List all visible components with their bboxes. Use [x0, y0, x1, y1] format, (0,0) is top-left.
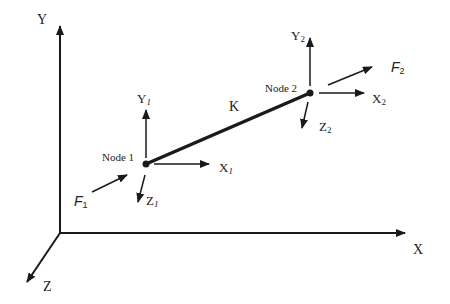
beam-element-diagram: Y X Z K Node 1 Y1 X1 Z1 F1 Node 2 Y2 X2 …	[0, 0, 450, 304]
node-1-force-label: F1	[74, 193, 88, 210]
element-line	[146, 93, 310, 164]
node-1-force-arrow	[92, 175, 127, 192]
node-1-y-label: Y1	[137, 91, 151, 107]
node-1-x-label: X1	[219, 160, 233, 176]
global-y-label: Y	[37, 12, 47, 27]
node-2-z-axis	[302, 102, 308, 128]
global-axes: Y X Z	[27, 12, 423, 294]
node-2-x-label: X2	[372, 91, 386, 107]
node-2-z-label: Z2	[319, 119, 331, 135]
node-2-force-label: F2	[391, 59, 405, 76]
node-1-label: Node 1	[102, 151, 134, 163]
node-1-z-label: Z1	[146, 193, 158, 209]
global-z-axis	[27, 233, 60, 282]
node-2-dot	[307, 90, 314, 97]
node-1-z-axis	[138, 175, 145, 202]
global-z-label: Z	[43, 279, 52, 294]
node-2: Node 2 Y2 X2 Z2 F2	[265, 28, 405, 135]
node-1: Node 1 Y1 X1 Z1 F1	[74, 91, 233, 210]
element-label: K	[229, 99, 239, 114]
node-2-label: Node 2	[265, 82, 297, 94]
node-1-dot	[143, 161, 150, 168]
node-2-force-arrow	[328, 67, 372, 85]
global-x-label: X	[413, 242, 423, 257]
node-2-y-label: Y2	[291, 28, 305, 44]
